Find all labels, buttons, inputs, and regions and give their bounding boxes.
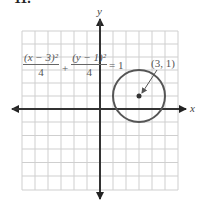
numerator-2: (y − 1)² bbox=[71, 52, 107, 65]
denominator-1: 4 bbox=[38, 65, 44, 78]
circle-equation: (x − 3)² 4 + (y − 1)² 4 = 1 bbox=[23, 52, 124, 78]
equals-one: = 1 bbox=[109, 59, 123, 71]
fraction-1: (x − 3)² 4 bbox=[23, 52, 59, 78]
center-label: (3, 1) bbox=[151, 57, 175, 69]
fraction-2: (y − 1)² 4 bbox=[71, 52, 107, 78]
coordinate-plane bbox=[0, 0, 201, 208]
x-axis-label: x bbox=[190, 102, 195, 114]
numerator-1: (x − 3)² bbox=[23, 52, 59, 65]
plus-sign: + bbox=[62, 56, 68, 74]
y-axis-label: y bbox=[97, 5, 102, 17]
center-point bbox=[137, 94, 142, 99]
denominator-2: 4 bbox=[86, 65, 92, 78]
center-pointer-arrow bbox=[142, 70, 157, 93]
